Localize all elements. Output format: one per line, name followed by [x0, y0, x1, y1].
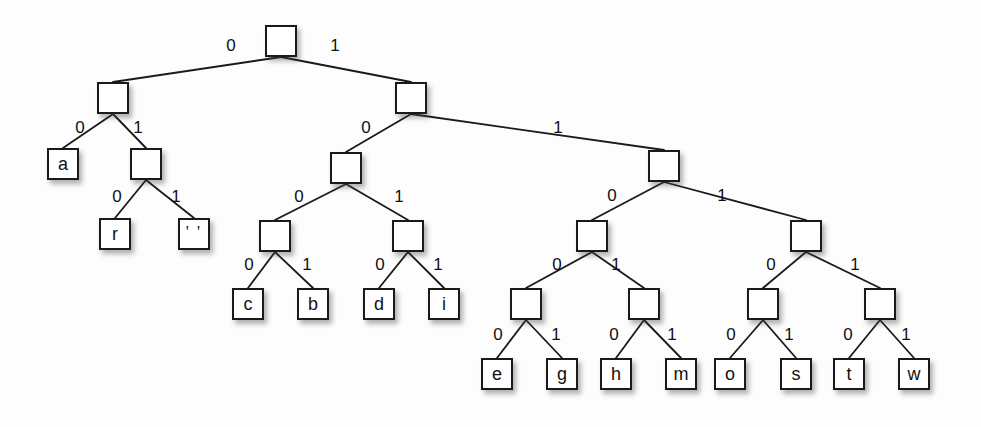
edge-label-bit: 1: [394, 188, 403, 205]
tree-edge: [664, 182, 806, 220]
edge-label-bit: 0: [843, 326, 852, 343]
tree-leaf-node-e[interactable]: e: [481, 358, 513, 390]
tree-internal-node[interactable]: [392, 220, 424, 252]
edge-label-bit: 1: [901, 326, 910, 343]
edge-label-bit: 0: [726, 326, 735, 343]
tree-edge: [281, 57, 411, 82]
edge-label-bit: 0: [766, 256, 775, 273]
tree-internal-node[interactable]: [130, 148, 162, 180]
tree-edge: [592, 182, 664, 220]
tree-internal-node[interactable]: [510, 288, 542, 320]
edge-label-bit: 0: [244, 256, 253, 273]
edge-label-bit: 0: [375, 256, 384, 273]
tree-internal-node[interactable]: [265, 25, 297, 57]
tree-leaf-node-w[interactable]: w: [898, 358, 930, 390]
tree-internal-node[interactable]: [395, 82, 427, 114]
tree-leaf-node-i[interactable]: i: [428, 288, 460, 320]
tree-internal-node[interactable]: [628, 288, 660, 320]
edge-label-bit: 1: [667, 326, 676, 343]
tree-internal-node[interactable]: [747, 288, 779, 320]
edge-label-bit: 1: [171, 188, 180, 205]
tree-internal-node[interactable]: [576, 220, 608, 252]
tree-edge: [806, 252, 880, 288]
edge-label-bit: 0: [607, 187, 616, 204]
edge-label-bit: 0: [361, 119, 370, 136]
tree-leaf-node-space[interactable]: ' ': [178, 218, 210, 250]
edge-label-bit: 1: [611, 256, 620, 273]
edge-label-bit: 0: [294, 188, 303, 205]
tree-edge: [63, 114, 113, 148]
tree-internal-node[interactable]: [259, 220, 291, 252]
tree-internal-node[interactable]: [864, 288, 896, 320]
tree-edge: [411, 114, 664, 150]
tree-edge: [849, 320, 880, 358]
tree-leaf-node-h[interactable]: h: [600, 358, 632, 390]
tree-leaf-node-t[interactable]: t: [833, 358, 865, 390]
tree-internal-node[interactable]: [97, 82, 129, 114]
edge-label-bit: 1: [551, 326, 560, 343]
huffman-tree-diagram: ar' 'cbdieghmostw 0101010101010101010101…: [0, 0, 981, 427]
tree-leaf-node-b[interactable]: b: [297, 288, 329, 320]
edge-label-bit: 1: [717, 187, 726, 204]
tree-edge: [346, 114, 411, 152]
tree-leaf-node-d[interactable]: d: [363, 288, 395, 320]
edge-label-bit: 0: [609, 326, 618, 343]
edge-label-bit: 1: [133, 119, 142, 136]
edge-label-bit: 0: [226, 37, 235, 54]
tree-leaf-node-m[interactable]: m: [665, 358, 697, 390]
edge-label-bit: 0: [75, 119, 84, 136]
tree-leaf-node-o[interactable]: o: [714, 358, 746, 390]
edge-label-bit: 0: [493, 326, 502, 343]
edge-label-bit: 0: [552, 256, 561, 273]
tree-leaf-node-r[interactable]: r: [99, 218, 131, 250]
tree-internal-node[interactable]: [648, 150, 680, 182]
tree-edge: [113, 57, 281, 82]
tree-leaf-node-s[interactable]: s: [780, 358, 812, 390]
edge-label-bit: 0: [112, 188, 121, 205]
tree-edge: [616, 320, 644, 358]
edge-label-bit: 1: [330, 37, 339, 54]
edge-label-bit: 1: [850, 256, 859, 273]
edge-label-bit: 1: [784, 326, 793, 343]
tree-internal-node[interactable]: [790, 220, 822, 252]
edge-label-bit: 1: [553, 119, 562, 136]
tree-leaf-node-c[interactable]: c: [232, 288, 264, 320]
tree-internal-node[interactable]: [330, 152, 362, 184]
tree-leaf-node-a[interactable]: a: [47, 148, 79, 180]
edge-label-bit: 1: [302, 256, 311, 273]
tree-edge: [275, 184, 346, 220]
tree-edge: [146, 180, 194, 218]
edge-label-bit: 1: [433, 256, 442, 273]
tree-leaf-node-g[interactable]: g: [546, 358, 578, 390]
